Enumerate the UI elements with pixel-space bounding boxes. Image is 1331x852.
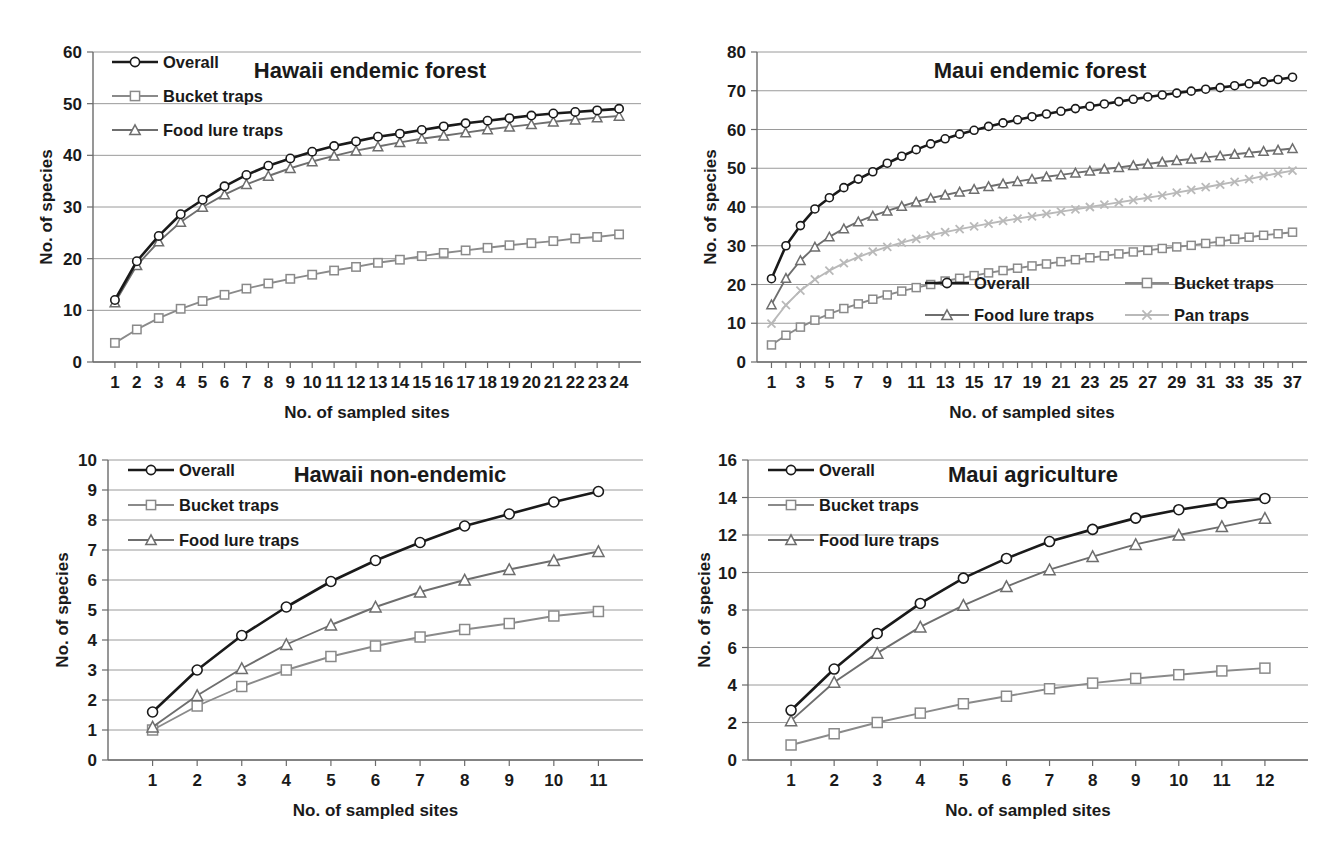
y-tick-label: 40 [727,198,746,217]
data-point-marker-circle [1100,100,1108,108]
legend-item-overall[interactable]: Overall [112,53,219,71]
data-point-marker-circle [1289,73,1297,81]
data-point-marker-circle [786,465,795,474]
data-point-marker-circle [1088,524,1098,534]
legend-item-food-lure-traps[interactable]: Food lure traps [768,531,939,549]
data-point-marker-circle [958,573,968,583]
data-point-marker-square [786,740,796,750]
legend-item-food-lure-traps[interactable]: Food lure traps [112,121,283,139]
y-tick-label: 10 [63,301,82,320]
legend-item-pan-traps[interactable]: Pan traps [1125,306,1249,324]
y-tick-label: 40 [63,146,82,165]
data-point-marker-square [1045,684,1055,694]
data-point-marker-square [1289,228,1297,236]
data-point-marker-circle [1001,553,1011,563]
data-point-marker-square [237,682,247,692]
data-point-marker-square [374,259,382,267]
y-tick-label: 50 [727,159,746,178]
data-point-marker-square [505,241,513,249]
chart-panel-hawaii-endemic-forest: 0102030405060123456789101112131415161718… [0,20,665,435]
data-point-marker-square [326,652,336,662]
data-point-marker-circle [237,631,247,641]
x-tick-label: 8 [460,771,469,790]
data-point-marker-circle [1202,85,1210,93]
legend-item-bucket-traps[interactable]: Bucket traps [112,87,263,105]
x-tick-label: 8 [1088,771,1097,790]
data-point-marker-cross [796,287,804,295]
data-point-marker-square [264,279,272,287]
x-tick-label: 27 [1138,373,1157,392]
legend-label: Food lure traps [163,121,283,139]
data-point-marker-circle [330,142,338,150]
figure-root: 0102030405060123456789101112131415161718… [0,0,1331,852]
x-tick-label: 23 [588,373,607,392]
x-tick-label: 15 [412,373,431,392]
series-bucket-traps [111,230,624,347]
legend-item-bucket-traps[interactable]: Bucket traps [128,496,279,514]
data-point-marker-square [615,230,623,238]
data-point-marker-square [593,233,601,241]
legend-item-overall[interactable]: Overall [128,461,235,479]
data-point-marker-triangle [829,677,840,688]
x-axis-title: No. of sampled sites [284,403,449,422]
x-axis-title: No. of sampled sites [945,801,1110,820]
x-tick-label: 7 [415,771,424,790]
x-tick-label: 35 [1254,373,1273,392]
data-point-marker-square [133,325,141,333]
y-tick-label: 30 [727,237,746,256]
data-point-marker-circle [111,296,119,304]
data-point-marker-circle [1174,505,1184,515]
x-tick-label: 33 [1225,373,1244,392]
data-point-marker-square [956,274,964,282]
y-tick-label: 0 [737,353,746,372]
x-tick-label: 7 [1045,771,1054,790]
legend-item-overall[interactable]: Overall [768,461,875,479]
chart-title: Maui agriculture [948,462,1118,487]
data-point-marker-circle [829,664,839,674]
data-point-marker-triangle [915,621,926,632]
y-axis-title: No. of species [701,149,720,264]
data-point-marker-triangle [370,601,381,612]
data-point-marker-square [155,314,163,322]
data-point-marker-square [461,246,469,254]
data-point-marker-square [415,632,425,642]
data-point-marker-circle [130,57,139,66]
data-point-marker-circle [1231,82,1239,90]
data-point-marker-square [242,284,250,292]
data-point-marker-circle [148,707,158,717]
data-point-marker-cross [811,275,819,283]
legend-label: Bucket traps [179,496,279,514]
data-point-marker-circle [782,242,790,250]
y-tick-label: 70 [727,82,746,101]
legend-item-bucket-traps[interactable]: Bucket traps [768,496,919,514]
legend-item-food-lure-traps[interactable]: Food lure traps [128,531,299,549]
data-point-marker-circle [133,257,141,265]
x-tick-label: 10 [1169,771,1188,790]
data-point-marker-circle [504,509,514,519]
data-point-marker-circle [1144,93,1152,101]
data-point-marker-triangle [1259,513,1270,524]
x-tick-label: 5 [825,373,834,392]
data-point-marker-circle [999,119,1007,127]
chart-title: Hawaii non-endemic [294,462,507,487]
x-tick-label: 14 [390,373,409,392]
legend-item-bucket-traps[interactable]: Bucket traps [1125,274,1274,292]
data-point-marker-circle [326,577,336,587]
legend-label: Overall [163,53,219,71]
chart-panel-maui-agriculture: 0246810121416123456789101112No. of sampl… [665,435,1331,852]
y-tick-label: 20 [63,250,82,269]
data-point-marker-circle [786,705,796,715]
data-point-marker-circle [198,196,206,204]
x-tick-label: 10 [544,771,563,790]
data-point-marker-square [825,310,833,318]
data-point-marker-circle [1245,80,1253,88]
data-point-marker-square [1274,230,1282,238]
data-point-marker-circle [146,465,155,474]
x-tick-label: 25 [1109,373,1128,392]
x-tick-label: 2 [829,771,838,790]
y-tick-label: 6 [88,571,97,590]
data-point-marker-circle [1260,493,1270,503]
legend-item-food-lure-traps[interactable]: Food lure traps [925,306,1094,324]
series-bucket-traps [148,607,604,736]
data-point-marker-circle [371,556,381,566]
